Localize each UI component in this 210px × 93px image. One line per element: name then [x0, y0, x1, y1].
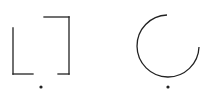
- open-circle-arc-shape: [137, 15, 199, 77]
- open-square-bracket-shape: [13, 17, 69, 74]
- dot-marker-right: [166, 85, 169, 88]
- dot-marker-left: [39, 85, 42, 88]
- diagram-canvas: [0, 0, 210, 93]
